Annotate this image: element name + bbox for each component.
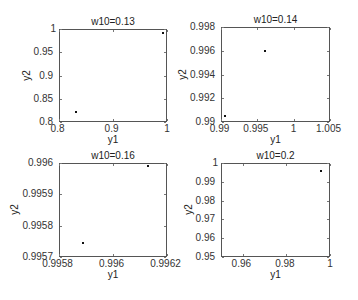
y-tick-mark (60, 226, 62, 227)
y-tick-label: 1 (212, 157, 218, 168)
y-tick-mark (327, 75, 329, 76)
y-tick-label: 0.96 (196, 232, 215, 243)
x-tick-mark (286, 254, 287, 256)
x-tick-mark (330, 119, 331, 121)
y-axis-label: y2 (177, 69, 188, 80)
y-tick-label: 0.85 (34, 93, 53, 104)
data-point (162, 32, 164, 34)
y-tick-mark (222, 51, 224, 52)
data-point (75, 111, 77, 113)
x-tick-mark (257, 28, 258, 30)
x-tick-mark (59, 119, 60, 121)
y-tick-mark (164, 76, 166, 77)
subplot-axes-4 (221, 163, 330, 257)
data-point (264, 50, 266, 52)
x-tick-mark (257, 119, 258, 121)
y-tick-label: 1 (50, 23, 56, 34)
y-tick-mark (222, 163, 224, 164)
y-tick-label: 0.97 (196, 213, 215, 224)
y-tick-label: 0.9957 (22, 251, 53, 262)
y-tick-mark (327, 122, 329, 123)
x-tick-mark (243, 164, 244, 166)
x-tick-label: 1 (164, 123, 170, 134)
y-tick-label: 0.996 (28, 157, 53, 168)
x-tick-mark (113, 164, 114, 166)
x-axis-label: y1 (59, 269, 167, 280)
subplot-title: w10=0.16 (59, 150, 167, 161)
y-axis-label: y2 (20, 70, 31, 81)
x-tick-mark (167, 119, 168, 121)
y-axis-label: y2 (182, 204, 193, 215)
y-tick-mark (222, 219, 224, 220)
y-tick-mark (60, 52, 62, 53)
x-tick-mark (330, 254, 331, 256)
x-axis-label: y1 (221, 134, 330, 145)
x-tick-label: 1 (291, 123, 297, 134)
y-tick-label: 0.8 (39, 116, 53, 127)
y-tick-mark (327, 163, 329, 164)
y-tick-mark (164, 29, 166, 30)
y-tick-mark (164, 194, 166, 195)
y-tick-mark (327, 182, 329, 183)
x-axis-label: y1 (59, 134, 167, 145)
y-tick-mark (222, 238, 224, 239)
subplot-title: w10=0.2 (221, 150, 330, 161)
x-tick-label: 1.005 (316, 123, 341, 134)
y-axis-label: y2 (9, 204, 20, 215)
x-tick-label: 0.9 (105, 123, 119, 134)
y-tick-mark (222, 201, 224, 202)
y-tick-mark (222, 98, 224, 99)
y-tick-label: 0.95 (196, 251, 215, 262)
y-tick-mark (60, 163, 62, 164)
x-tick-mark (59, 254, 60, 256)
x-tick-mark (286, 164, 287, 166)
x-tick-label: 0.995 (243, 123, 268, 134)
y-tick-mark (327, 98, 329, 99)
y-tick-label: 0.998 (190, 21, 215, 32)
x-tick-mark (167, 164, 168, 166)
x-tick-label: 0.98 (275, 258, 294, 269)
y-tick-mark (60, 76, 62, 77)
x-tick-mark (330, 28, 331, 30)
data-point (320, 170, 322, 172)
y-tick-label: 0.994 (190, 69, 215, 80)
y-tick-label: 0.95 (34, 46, 53, 57)
y-tick-mark (327, 257, 329, 258)
y-tick-mark (60, 99, 62, 100)
y-tick-mark (60, 194, 62, 195)
y-tick-mark (327, 219, 329, 220)
y-tick-label: 0.99 (196, 176, 215, 187)
x-tick-mark (221, 119, 222, 121)
y-tick-mark (60, 257, 62, 258)
y-tick-mark (164, 226, 166, 227)
x-tick-mark (59, 164, 60, 166)
x-tick-label: 1 (327, 258, 333, 269)
y-tick-label: 0.9 (39, 70, 53, 81)
y-tick-label: 0.98 (196, 195, 215, 206)
y-tick-label: 0.99 (196, 116, 215, 127)
y-tick-mark (164, 52, 166, 53)
y-tick-mark (327, 238, 329, 239)
x-tick-mark (221, 28, 222, 30)
y-tick-label: 0.9959 (22, 188, 53, 199)
y-tick-label: 0.992 (190, 92, 215, 103)
y-tick-mark (60, 29, 62, 30)
data-point (147, 165, 149, 167)
x-tick-mark (113, 254, 114, 256)
x-tick-mark (113, 30, 114, 32)
y-tick-mark (164, 122, 166, 123)
subplot-axes-3 (59, 163, 167, 257)
y-tick-mark (327, 201, 329, 202)
y-tick-mark (222, 122, 224, 123)
x-tick-mark (294, 119, 295, 121)
x-tick-mark (113, 119, 114, 121)
y-tick-mark (164, 163, 166, 164)
y-tick-label: 0.996 (190, 45, 215, 56)
subplot-axes-2 (221, 27, 330, 122)
y-tick-mark (222, 182, 224, 183)
subplot-axes-1 (59, 29, 167, 122)
y-tick-mark (222, 257, 224, 258)
x-tick-label: 0.96 (232, 258, 251, 269)
x-tick-mark (330, 164, 331, 166)
y-tick-mark (327, 27, 329, 28)
